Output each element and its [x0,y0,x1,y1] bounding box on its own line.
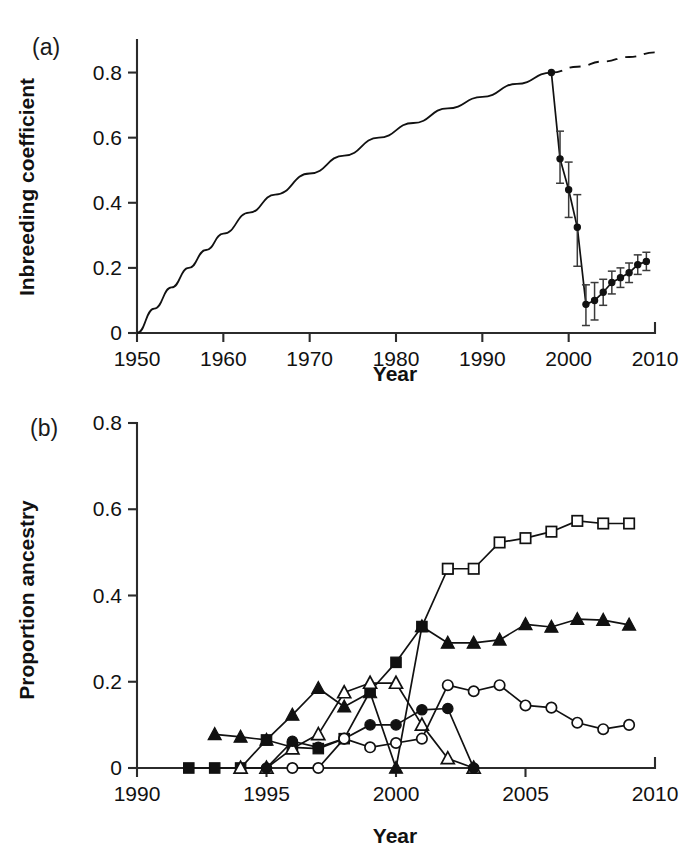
marker-open-circle [339,733,349,743]
marker-filled-square [391,657,401,667]
marker-data-point [548,69,554,75]
marker-open-circle [546,702,556,712]
inbreeding-projection-curve [137,73,551,333]
y-tick-label: 0.6 [93,126,122,149]
series-line [241,683,474,768]
series-projected-inbreeding-accumulation-solid [137,73,551,333]
marker-open-square [443,564,453,574]
marker-filled-circle [261,763,271,773]
series-projected-inbreeding-without-immigration-dashed [551,52,655,72]
y-tick-label: 0.8 [93,61,122,84]
marker-filled-square [184,763,194,773]
marker-filled-circle [417,705,427,715]
marker-data-point [600,289,606,295]
marker-filled-triangle [519,618,532,630]
marker-open-circle [469,686,479,696]
marker-filled-triangle [571,612,584,624]
panel-a-inbreeding-coefficient: 00.20.40.60.8195019601970198019902000201… [0,0,694,400]
y-tick-label: 0 [110,756,122,779]
panel-b-tick-labels: 00.20.40.60.819901995200020052010 [93,411,679,805]
marker-filled-circle [469,763,479,773]
marker-data-point [635,262,641,268]
marker-data-point [643,258,649,264]
y-tick-label: 0.8 [93,411,122,434]
y-tick-label: 0.2 [93,670,122,693]
x-tick-label: 1995 [243,782,290,805]
x-tick-label: 1990 [114,782,161,805]
marker-data-point [583,301,589,307]
marker-open-circle [417,733,427,743]
marker-filled-triangle [208,728,221,740]
marker-data-point [609,279,615,285]
marker-open-square [572,516,582,526]
panel-a-plot-area: 00.20.40.60.8195019601970198019902000201… [93,40,679,370]
marker-data-point [626,270,632,276]
marker-open-circle [598,724,608,734]
panel-b-tag: (b) [30,415,58,441]
marker-open-circle [494,680,504,690]
figure-root: 00.20.40.60.8195019601970198019902000201… [0,0,694,860]
x-tick-label: 2010 [632,782,679,805]
x-tick-label: 1950 [114,347,161,370]
marker-filled-triangle [312,681,325,693]
series-observed-inbreeding-coefficient [548,69,650,325]
y-tick-label: 0.4 [93,191,123,214]
panel-a-tag: (a) [32,34,60,60]
marker-open-circle [391,738,401,748]
series-open-triangle [234,676,480,773]
panel-a-data-series [137,52,655,333]
x-tick-label: 1960 [200,347,247,370]
panel-a-svg: 00.20.40.60.8195019601970198019902000201… [0,0,694,400]
marker-open-circle [287,763,297,773]
marker-data-point [557,156,563,162]
panel-b-data-series [184,516,636,774]
marker-filled-circle [443,703,453,713]
panel-b-yaxis-title: Proportion ancestry [15,500,38,700]
series-open-square [443,516,635,574]
marker-open-circle [520,700,530,710]
marker-open-square [598,518,608,528]
panel-b-svg: 00.20.40.60.819901995200020052010 (b) Ye… [0,400,694,860]
marker-data-point [591,297,597,303]
x-tick-label: 2000 [545,347,592,370]
marker-filled-square [210,763,220,773]
marker-open-circle [572,718,582,728]
marker-open-square [520,533,530,543]
marker-open-square [546,526,556,536]
y-tick-label: 0.6 [93,497,122,520]
panel-b-proportion-ancestry: 00.20.40.60.819901995200020052010 (b) Ye… [0,400,694,860]
marker-open-square [469,564,479,574]
x-tick-label: 2005 [502,782,549,805]
panel-a-tick-labels: 00.20.40.60.8195019601970198019902000201… [93,61,679,370]
y-tick-label: 0.2 [93,256,122,279]
x-tick-label: 2010 [632,347,679,370]
marker-open-circle [313,763,323,773]
marker-filled-circle [365,720,375,730]
x-tick-label: 1970 [286,347,333,370]
marker-open-circle [624,720,634,730]
marker-open-circle [443,680,453,690]
panel-b-plot-area: 00.20.40.60.819901995200020052010 [93,411,679,805]
marker-open-circle [365,742,375,752]
panel-a-yaxis-title: Inbreeding coefficient [15,78,38,296]
axis-frame [137,423,655,768]
marker-open-square [494,537,504,547]
panel-b-xaxis-title: Year [373,824,417,847]
series-filled-triangle [208,612,635,773]
marker-open-square [624,518,634,528]
y-tick-label: 0.4 [93,584,123,607]
panel-a-xaxis-title: Year [373,362,417,385]
marker-filled-triangle [493,633,506,645]
marker-filled-circle [313,742,323,752]
x-tick-label: 2000 [373,782,420,805]
panel-a-axes [128,40,655,342]
y-tick-label: 0 [110,321,122,344]
axis-frame [137,40,655,333]
marker-filled-triangle [338,700,351,712]
marker-filled-circle [391,720,401,730]
marker-data-point [566,187,572,193]
inbreeding-expected-dashed [551,52,655,72]
marker-open-triangle [312,728,325,740]
series-line [215,619,629,768]
marker-data-point [574,224,580,230]
